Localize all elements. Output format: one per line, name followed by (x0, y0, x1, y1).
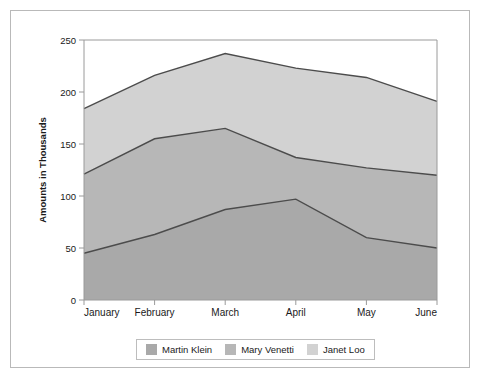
y-axis-title: Amounts in Thousands (37, 117, 48, 223)
y-tick-label-100: 100 (60, 191, 76, 202)
legend-swatch-icon (146, 344, 157, 355)
chart-svg: 050100150200250JanuaryFebruaryMarchApril… (0, 0, 482, 380)
legend-item: Janet Loo (307, 344, 365, 355)
y-tick-label-250: 250 (60, 35, 76, 46)
x-tick-label-june: June (415, 307, 437, 318)
legend-label: Janet Loo (323, 344, 365, 355)
legend-item: Mary Venetti (225, 344, 294, 355)
legend-swatch-icon (307, 344, 318, 355)
legend-label: Martin Klein (162, 344, 212, 355)
legend-swatch-icon (225, 344, 236, 355)
stacked-area-chart: 050100150200250JanuaryFebruaryMarchApril… (0, 0, 482, 380)
x-tick-label-march: March (211, 307, 239, 318)
x-tick-label-february: February (135, 307, 175, 318)
chart-legend: Martin KleinMary VenettiJanet Loo (136, 339, 375, 360)
y-tick-label-50: 50 (65, 243, 76, 254)
legend-item: Martin Klein (146, 344, 212, 355)
y-tick-label-0: 0 (71, 295, 76, 306)
x-tick-label-april: April (286, 307, 306, 318)
legend-label: Mary Venetti (241, 344, 294, 355)
y-tick-label-150: 150 (60, 139, 76, 150)
x-tick-label-may: May (357, 307, 376, 318)
y-tick-label-200: 200 (60, 87, 76, 98)
x-tick-label-january: January (84, 307, 120, 318)
